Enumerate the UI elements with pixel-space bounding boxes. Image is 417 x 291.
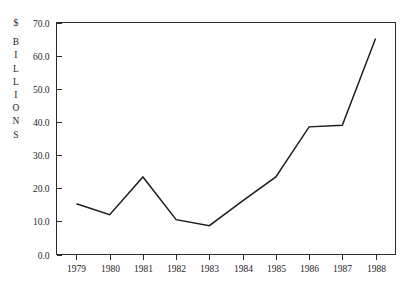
y-axis-title-char: N bbox=[12, 116, 19, 126]
x-tick-label: 1985 bbox=[267, 264, 286, 274]
x-tick-label: 1986 bbox=[300, 264, 319, 274]
y-axis-title: $BILLIONS bbox=[12, 18, 19, 140]
y-axis-title-char: $ bbox=[13, 18, 18, 28]
line-chart: 0.010.020.030.040.050.060.070.0 19791980… bbox=[0, 0, 417, 291]
y-axis-title-char: I bbox=[14, 90, 17, 100]
y-tick-label: 10.0 bbox=[33, 217, 50, 227]
x-tick-label: 1980 bbox=[101, 264, 120, 274]
x-tick-label: 1982 bbox=[167, 264, 186, 274]
y-tick-label: 30.0 bbox=[33, 151, 50, 161]
x-tick-label: 1981 bbox=[134, 264, 153, 274]
y-tick-label: 70.0 bbox=[33, 19, 50, 29]
chart-background bbox=[0, 0, 417, 291]
y-tick-label: 50.0 bbox=[33, 85, 50, 95]
x-tick-label: 1988 bbox=[367, 264, 386, 274]
y-tick-label: 20.0 bbox=[33, 184, 50, 194]
y-axis-title-char: I bbox=[14, 50, 17, 60]
x-tick-label: 1984 bbox=[234, 264, 253, 274]
x-tick-label: 1983 bbox=[200, 264, 219, 274]
y-tick-label: 0.0 bbox=[38, 251, 50, 261]
y-axis-title-char: L bbox=[13, 77, 19, 87]
y-axis-title-char: L bbox=[13, 64, 19, 74]
y-tick-label: 60.0 bbox=[33, 52, 50, 62]
y-axis-title-char: O bbox=[12, 103, 19, 113]
chart-container: 0.010.020.030.040.050.060.070.0 19791980… bbox=[0, 0, 417, 291]
x-tick-label: 1987 bbox=[333, 264, 352, 274]
y-tick-label: 40.0 bbox=[33, 118, 50, 128]
x-tick-label: 1979 bbox=[67, 264, 86, 274]
y-axis-title-char: S bbox=[13, 130, 19, 140]
y-axis-title-char: B bbox=[13, 37, 20, 47]
